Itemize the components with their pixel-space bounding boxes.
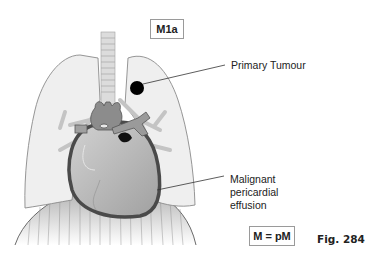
trachea [101,32,115,104]
equation-label-box: M = pM [249,226,295,246]
primary-tumour-label: Primary Tumour [231,59,306,72]
figure-number: Fig. 284 [317,233,365,245]
effusion-label: Malignant pericardial effusion [230,173,278,212]
effusion-label-line1: Malignant [230,173,278,186]
effusion-label-line3: effusion [230,199,278,212]
primary-tumour-mass [130,81,144,95]
heart [69,122,160,217]
effusion-label-line2: pericardial [230,186,278,199]
pericardium [69,122,160,217]
stage-label-box: M1a [150,19,184,39]
thoracic-anatomy-illustration [0,0,384,270]
